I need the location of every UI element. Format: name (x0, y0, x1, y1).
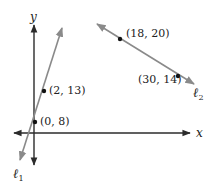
y-axis-label: y (29, 10, 37, 24)
x-axis: x (14, 126, 203, 140)
point-label-30-14: (30, 14) (138, 73, 182, 86)
line-l2: (18, 20) (30, 14) ℓ2 (97, 24, 204, 102)
point-dot (118, 37, 122, 41)
y-axis: y (29, 10, 37, 165)
x-axis-label: x (196, 126, 203, 140)
coordinate-diagram: x y (0, 8) (2, 13) ℓ1 (18, 20) (30, 14) … (0, 0, 212, 186)
point-label-2-13: (2, 13) (49, 84, 86, 97)
line-l2-label: ℓ2 (193, 85, 204, 102)
line-l1-label: ℓ1 (13, 166, 24, 183)
point-dot (42, 89, 46, 93)
point-dot (33, 120, 37, 124)
line-l1: (0, 8) (2, 13) ℓ1 (13, 28, 86, 183)
point-label-18-20: (18, 20) (126, 27, 170, 40)
point-label-0-8: (0, 8) (40, 115, 70, 128)
